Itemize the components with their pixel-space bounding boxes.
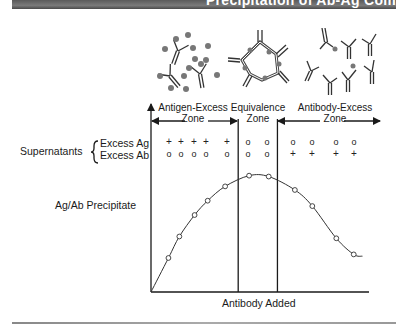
excess-ag-symbol: +: [191, 136, 197, 147]
data-point: [247, 173, 252, 178]
data-point: [310, 204, 315, 209]
lattice-complex-icon: [228, 30, 289, 87]
zone-label-line2: Zone: [158, 113, 228, 124]
data-point: [351, 252, 356, 257]
x-axis-label: Antibody Added: [222, 297, 296, 309]
zone-label-line1: Antibody-Excess: [295, 102, 375, 113]
zone-label-line2: Zone: [230, 113, 286, 124]
excess-ag-symbol: +: [203, 136, 209, 147]
data-point: [292, 188, 297, 193]
excess-ag-symbol: +: [178, 136, 184, 147]
excess-ag-symbol: o: [351, 137, 356, 147]
excess-ab-symbol: +: [351, 148, 357, 159]
excess-ag-symbol: o: [245, 137, 250, 147]
excess-ab-label: Excess Ab: [100, 149, 149, 161]
excess-ab-symbol: o: [264, 149, 269, 159]
zone-label-line1: Equivalence: [230, 102, 286, 113]
excess-ab-symbol: o: [224, 149, 229, 159]
data-point: [205, 198, 210, 203]
excess-ab-symbol: o: [178, 149, 183, 159]
precipitate-curve: [151, 175, 362, 292]
antigen-dots: [157, 32, 220, 92]
supernatants-brace: [91, 141, 98, 163]
data-point: [166, 256, 171, 261]
bottom-rule: [12, 322, 396, 324]
excess-ag-symbol: o: [333, 137, 338, 147]
antibody-excess-complexes-icon: [305, 28, 376, 95]
excess-ab-symbol: +: [333, 148, 339, 159]
supernatants-label: Supernatants: [20, 145, 82, 157]
excess-ag-symbol: o: [264, 137, 269, 147]
data-point: [177, 234, 182, 239]
zone-label-antibody-excess: Antibody-Excess Zone: [295, 102, 375, 124]
zone-label-equivalence: Equivalence Zone: [230, 102, 286, 124]
data-points: [166, 173, 356, 260]
data-point: [334, 236, 339, 241]
supernatant-symbols: +++++ooooooooooooo++++: [166, 136, 357, 159]
excess-ag-symbol: o: [309, 137, 314, 147]
data-point: [223, 184, 228, 189]
excess-ag-symbol: +: [166, 136, 172, 147]
excess-ab-symbol: o: [191, 149, 196, 159]
zone-label-line2: Zone: [295, 113, 375, 124]
excess-ab-symbol: o: [166, 149, 171, 159]
zone-label-antigen-excess: Antigen-Excess Zone: [158, 102, 228, 124]
data-point: [192, 213, 197, 218]
excess-ag-symbol: o: [290, 137, 295, 147]
excess-ab-symbol: +: [309, 148, 315, 159]
excess-ab-symbol: o: [203, 149, 208, 159]
precipitate-label: Ag/Ab Precipitate: [55, 199, 136, 211]
precipitation-diagram: +++++ooooooooooooo++++: [0, 0, 396, 327]
excess-ag-symbol: +: [224, 136, 230, 147]
excess-ag-label: Excess Ag: [100, 137, 149, 149]
data-point: [266, 174, 271, 179]
excess-ab-symbol: +: [290, 148, 296, 159]
zone-label-line1: Antigen-Excess: [158, 102, 228, 113]
excess-ab-symbol: o: [245, 149, 250, 159]
